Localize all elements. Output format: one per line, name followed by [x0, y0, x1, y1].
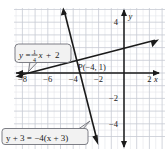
y-tick-label: −4	[109, 119, 119, 129]
x-axis-label: x	[153, 74, 158, 84]
callout-line1-frac-numerator: 1	[33, 49, 36, 55]
callout-line1-constant: 2	[55, 50, 60, 60]
point-p-label: P(−4, 1)	[78, 62, 106, 72]
x-tick-label: −2	[94, 74, 103, 84]
callout-line1-box	[15, 44, 71, 63]
coordinate-plane-figure: −8−6−4−22 4−2−4 x y P(−4, 1) y = 1 4 x	[0, 0, 165, 149]
callout-line2-equation: y + 3 = −4(x + 3)	[6, 133, 68, 143]
callout-line1-lhs: y	[18, 50, 23, 60]
x-tick-label: −4	[69, 74, 79, 84]
callout-line1-plus: +	[46, 50, 51, 60]
y-axis-label: y	[128, 11, 133, 21]
graph-canvas: −8−6−4−22 4−2−4 x y P(−4, 1) y = 1 4 x	[0, 0, 165, 149]
x-tick-label: −6	[43, 74, 52, 84]
point-p-group: P(−4, 1)	[78, 62, 106, 72]
callout-line1-variable: x	[38, 50, 43, 60]
y-tick-label: −2	[109, 93, 118, 103]
callout-line1-frac-denominator: 4	[33, 57, 36, 63]
x-tick-label: 2	[147, 74, 151, 84]
x-tick-label: −8	[18, 74, 27, 84]
plot-background	[14, 8, 165, 149]
callout-line1-equals: =	[26, 50, 31, 60]
